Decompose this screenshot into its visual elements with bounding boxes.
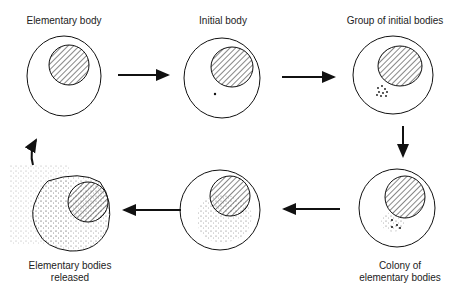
label-released-line1: Elementary bodies bbox=[18, 260, 122, 272]
arrow-6-to-1 bbox=[32, 140, 36, 165]
label-elementary-bodies-released: Elementary bodies released bbox=[18, 260, 122, 284]
label-colony-of-elementary-bodies: Colony of elementary bodies bbox=[350, 260, 450, 284]
cell-group-of-initial-bodies bbox=[353, 36, 433, 114]
cell-mature-inclusion bbox=[180, 170, 260, 250]
cell-elementary-body bbox=[27, 36, 101, 116]
label-elementary-body: Elementary body bbox=[14, 15, 114, 27]
label-colony-line1: Colony of bbox=[350, 260, 450, 272]
cycle-diagram bbox=[0, 0, 464, 287]
cell-elementary-bodies-released bbox=[10, 165, 110, 251]
cell-initial-body bbox=[184, 38, 260, 118]
label-colony-line2: elementary bodies bbox=[350, 272, 450, 284]
label-group-of-initial-bodies: Group of initial bodies bbox=[335, 15, 455, 27]
cell-colony-of-elementary-bodies bbox=[359, 169, 435, 247]
label-released-line2: released bbox=[18, 272, 122, 284]
label-initial-body: Initial body bbox=[178, 15, 268, 27]
